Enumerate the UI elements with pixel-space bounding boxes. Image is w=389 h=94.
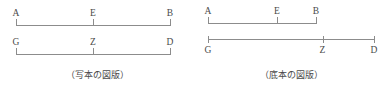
point-label-e: E	[274, 7, 280, 17]
tick-e	[93, 19, 94, 26]
point-label-a: A	[204, 7, 211, 17]
figure-panel-manuscript: A E B G Z D （写本の図版）	[0, 0, 195, 94]
segment-rule	[208, 39, 374, 40]
tick-z	[93, 48, 94, 55]
segment-rule	[208, 23, 316, 24]
segment-gzd-manuscript: G Z D	[16, 43, 170, 67]
segment-aeb-manuscript: A E B	[16, 14, 170, 38]
segment-gzd-basetext: G Z D	[208, 33, 374, 57]
tick-b	[170, 19, 171, 26]
point-label-d: D	[370, 46, 377, 56]
tick-g	[208, 36, 209, 43]
tick-z	[323, 36, 324, 43]
diagram-basetext: A E B G Z D	[194, 0, 389, 64]
tick-e	[277, 17, 278, 24]
point-label-b: B	[313, 7, 320, 17]
point-label-z: Z	[90, 38, 96, 48]
tick-a	[16, 19, 17, 26]
tick-a	[208, 17, 209, 24]
point-label-g: G	[204, 46, 211, 56]
figure-pair: A E B G Z D （写本の図版）	[0, 0, 389, 94]
point-label-d: D	[166, 38, 173, 48]
caption-basetext: （底本の図版）	[194, 70, 389, 81]
point-label-g: G	[12, 38, 19, 48]
tick-g	[16, 48, 17, 55]
point-label-e: E	[90, 9, 96, 19]
caption-manuscript: （写本の図版）	[0, 70, 195, 81]
tick-d	[374, 36, 375, 43]
diagram-manuscript: A E B G Z D	[0, 0, 195, 64]
point-label-a: A	[12, 9, 19, 19]
tick-d	[170, 48, 171, 55]
point-label-b: B	[167, 9, 174, 19]
figure-panel-basetext: A E B G Z D （底本の図版）	[194, 0, 389, 94]
tick-b	[316, 17, 317, 24]
point-label-z: Z	[320, 46, 326, 56]
